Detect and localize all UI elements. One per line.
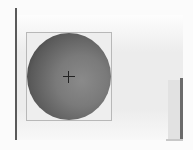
scrollbar-thumb[interactable] bbox=[180, 78, 183, 140]
crosshair-icon[interactable] bbox=[63, 71, 75, 83]
scrollbar-base bbox=[166, 139, 183, 141]
